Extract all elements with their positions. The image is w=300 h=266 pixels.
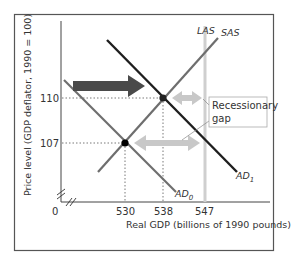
callout-line1: Recessionary bbox=[212, 100, 278, 111]
x-axis-title: Real GDP (billions of 1990 pounds) bbox=[126, 219, 291, 230]
las-label: LAS bbox=[197, 25, 215, 36]
sas-label: SAS bbox=[221, 27, 240, 38]
y-tick-107: 107 bbox=[40, 138, 59, 149]
x-tick-547: 547 bbox=[195, 206, 214, 217]
x-tick-538: 538 bbox=[154, 206, 173, 217]
y-axis-title: Price level (GDP deflator, 1990 = 100) bbox=[22, 14, 33, 196]
y-tick-110: 110 bbox=[40, 93, 59, 104]
equilibrium-point-0 bbox=[121, 139, 128, 146]
x-tick-530: 530 bbox=[116, 206, 135, 217]
chart: Recessionary gap LAS SAS AD1 AD0 110 107… bbox=[0, 0, 300, 266]
callout-line2: gap bbox=[212, 113, 231, 124]
origin-label: 0 bbox=[52, 206, 58, 217]
equilibrium-point-1 bbox=[159, 94, 166, 101]
